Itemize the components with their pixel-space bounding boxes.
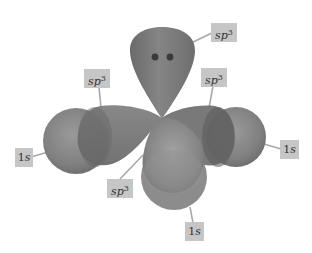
label-1s-bottom: 1s: [185, 222, 204, 241]
label-sp3-bottom-left: sp3: [107, 179, 133, 198]
electron-dot: [167, 54, 174, 61]
label-sp3-left: sp3: [84, 69, 110, 88]
electron-dot: [152, 54, 159, 61]
label-1s-right: 1s: [280, 140, 299, 159]
label-sp3-right: sp3: [201, 68, 227, 87]
orbital-illustration: [0, 0, 312, 253]
orbital-diagram: sp3 sp3 sp3 sp3 1s 1s 1s: [0, 0, 312, 253]
lone-pair-lobe: [130, 27, 195, 119]
label-sp3-top: sp3: [211, 23, 237, 42]
label-1s-left: 1s: [15, 148, 33, 167]
